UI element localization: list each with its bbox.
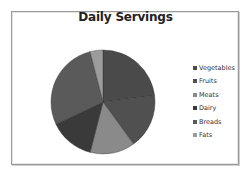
legend-label: Dairy: [199, 104, 216, 112]
pie-slice-vegetables[interactable]: [103, 50, 155, 102]
legend-item-fats: Fats: [193, 129, 243, 143]
legend-label: Meats: [199, 91, 219, 99]
legend-item-fruits: Fruits: [193, 75, 243, 89]
legend-item-vegetables: Vegetables: [193, 61, 243, 75]
pie-slices: [51, 50, 155, 154]
legend-item-meats: Meats: [193, 88, 243, 102]
legend-swatch-icon: [193, 93, 197, 97]
legend-swatch-icon: [193, 79, 197, 83]
legend-item-breads: Breads: [193, 115, 243, 129]
legend-label: Fruits: [199, 77, 217, 85]
legend-label: Vegetables: [199, 64, 235, 72]
legend-swatch-icon: [193, 133, 197, 137]
legend-swatch-icon: [193, 120, 197, 124]
legend-swatch-icon: [193, 106, 197, 110]
legend[interactable]: Vegetables Fruits Meats Dairy Breads Fat…: [193, 61, 243, 142]
legend-item-dairy: Dairy: [193, 102, 243, 116]
legend-label: Breads: [199, 118, 221, 126]
legend-label: Fats: [199, 131, 212, 139]
legend-swatch-icon: [193, 66, 197, 70]
